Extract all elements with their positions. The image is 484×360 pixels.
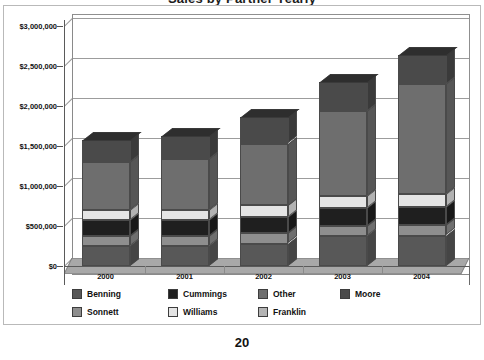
bar-segment[interactable]	[240, 144, 288, 206]
value-axis-line	[64, 20, 65, 285]
bar-top-face	[82, 132, 142, 141]
value-axis-label: $2,500,000	[19, 62, 57, 71]
bar-segment[interactable]	[398, 55, 446, 84]
bar-segment-side	[130, 155, 139, 210]
category-label: 2003	[308, 272, 378, 281]
bar-segment[interactable]	[161, 220, 209, 236]
value-axis-labels: $0$500,000$1,000,000$1,500,000$2,000,000…	[0, 0, 57, 330]
left-wall-back-edge	[72, 14, 73, 266]
bar-segment-side	[367, 104, 376, 196]
bar-segment[interactable]	[161, 159, 209, 210]
bar-segment[interactable]	[398, 236, 446, 266]
legend-label: Moore	[355, 288, 381, 300]
bar-segment[interactable]	[240, 117, 288, 143]
bar-segment[interactable]	[82, 236, 130, 246]
scanned-page: Sales by Partner Yearly $0$500,000$1,000…	[0, 0, 484, 360]
category-label: 2004	[387, 272, 457, 281]
value-axis-tick	[57, 26, 63, 27]
category-axis-line	[64, 266, 469, 267]
bar-segment-side	[446, 77, 455, 194]
bar-segment[interactable]	[398, 194, 446, 207]
bar-segment[interactable]	[319, 226, 367, 236]
category-separator	[224, 266, 225, 275]
legend-color-swatch	[258, 289, 268, 299]
category-separator	[303, 266, 304, 275]
legend-label: Cummings	[183, 288, 227, 300]
legend-color-swatch	[168, 289, 178, 299]
bar-segment[interactable]	[240, 217, 288, 233]
value-axis-tick	[57, 226, 63, 227]
bar-segment[interactable]	[398, 84, 446, 194]
bar-segment[interactable]	[161, 136, 209, 159]
value-axis-label: $3,000,000	[19, 22, 57, 31]
legend-color-swatch	[72, 289, 82, 299]
category-axis-end-tick	[469, 266, 470, 285]
bar-segment[interactable]	[319, 111, 367, 196]
value-axis-label: $500,000	[26, 222, 57, 231]
legend-color-swatch	[168, 307, 178, 317]
value-axis-label: $0	[49, 262, 57, 271]
chart-legend: BenningCummingsOtherMooreSonnettWilliams…	[72, 288, 412, 322]
bar-segment[interactable]	[161, 246, 209, 266]
value-axis-label: $1,500,000	[19, 142, 57, 151]
bar-top-face	[161, 128, 221, 137]
bar-segment[interactable]	[240, 233, 288, 243]
bar-segment[interactable]	[398, 207, 446, 225]
legend-color-swatch	[72, 307, 82, 317]
category-separator	[382, 266, 383, 275]
bar-segment[interactable]	[161, 210, 209, 220]
bar-segment[interactable]	[319, 236, 367, 266]
category-label: 2001	[150, 272, 220, 281]
category-label: 2002	[229, 272, 299, 281]
chart-plot-area: $0$500,000$1,000,000$1,500,000$2,000,000…	[0, 0, 484, 330]
bar-segment[interactable]	[82, 220, 130, 236]
value-axis-label: $1,000,000	[19, 182, 57, 191]
category-separator	[145, 266, 146, 275]
value-axis-tick	[57, 146, 63, 147]
legend-label: Sonnett	[87, 306, 119, 318]
bar-segment[interactable]	[319, 208, 367, 226]
bar-segment[interactable]	[319, 82, 367, 111]
value-axis-tick	[57, 266, 63, 267]
bar-segment[interactable]	[240, 244, 288, 266]
bar-segment[interactable]	[82, 162, 130, 210]
bar-segment[interactable]	[319, 196, 367, 208]
value-axis-tick	[57, 106, 63, 107]
legend-label: Franklin	[273, 306, 306, 318]
legend-color-swatch	[258, 307, 268, 317]
bar-segment[interactable]	[398, 225, 446, 235]
bar-segment[interactable]	[240, 205, 288, 217]
bar-segment[interactable]	[82, 246, 130, 266]
value-axis-tick	[57, 66, 63, 67]
category-label: 2000	[71, 272, 141, 281]
value-axis-tick	[57, 186, 63, 187]
bar-segment[interactable]	[82, 140, 130, 162]
legend-label: Williams	[183, 306, 217, 318]
bar-segment[interactable]	[161, 236, 209, 246]
bar-segment[interactable]	[82, 210, 130, 220]
legend-label: Benning	[87, 288, 121, 300]
legend-label: Other	[273, 288, 296, 300]
page-number: 20	[0, 335, 484, 350]
legend-color-swatch	[340, 289, 350, 299]
bar-segment-side	[209, 152, 218, 210]
bar-segment-side	[288, 137, 297, 206]
value-axis-label: $2,000,000	[19, 102, 57, 111]
